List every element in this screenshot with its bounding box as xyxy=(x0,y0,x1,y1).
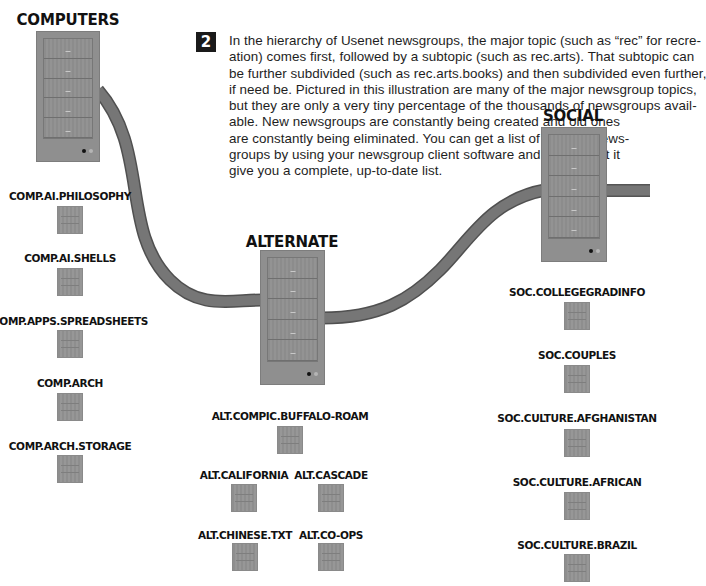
mini-server-icon xyxy=(564,302,590,330)
subgroup-label: SOC.CULTURE.AFRICAN xyxy=(513,476,642,488)
mini-server-icon xyxy=(57,455,83,483)
mini-server-icon xyxy=(232,543,258,571)
hierarchy-title-computers: COMPUTERS xyxy=(17,11,120,29)
subgroup-label: SOC.COLLEGEGRADINFO xyxy=(509,286,645,298)
mini-server-icon xyxy=(57,330,83,358)
mini-server-icon xyxy=(318,543,344,571)
description-line: ation) comes first, followed by a subtop… xyxy=(229,49,629,65)
server-rack-icon xyxy=(36,31,100,162)
mini-server-icon xyxy=(57,393,83,421)
subgroup-label: ALT.COMPIC.BUFFALO-ROAM xyxy=(212,410,369,422)
subgroup-label: SOC.COUPLES xyxy=(538,349,616,361)
mini-server-icon xyxy=(564,365,590,393)
mini-server-icon xyxy=(277,426,303,454)
description-line: be further subdivided (such as rec.arts.… xyxy=(229,66,629,82)
subgroup-label: ALT.CHINESE.TXT xyxy=(198,529,292,541)
description-line: if need be. Pictured in this illustratio… xyxy=(229,82,629,98)
subgroup-label: COMP.ARCH.STORAGE xyxy=(9,440,131,452)
subgroup-label: COMP.AI.SHELLS xyxy=(24,252,116,264)
description-line: In the hierarchy of Usenet newsgroups, t… xyxy=(229,33,629,49)
step-number-badge: 2 xyxy=(196,32,216,52)
server-rack-icon xyxy=(260,250,325,385)
mini-server-icon xyxy=(564,429,590,457)
mini-server-icon xyxy=(231,484,257,512)
subgroup-label: SOC.CULTURE.BRAZIL xyxy=(517,539,637,551)
mini-server-icon xyxy=(318,484,344,512)
subgroup-label: COMP.ARCH xyxy=(37,377,103,389)
subgroup-label: ALT.CALIFORNIA xyxy=(200,469,288,481)
subgroup-label: COMP.APPS.SPREADSHEETS xyxy=(0,315,148,327)
mini-server-icon xyxy=(564,554,590,582)
subgroup-label: COMP.AI.PHILOSOPHY xyxy=(9,190,131,202)
mini-server-icon xyxy=(57,268,83,296)
subgroup-label: ALT.CASCADE xyxy=(294,469,367,481)
server-rack-icon xyxy=(541,127,607,262)
hierarchy-title-alternate: ALTERNATE xyxy=(246,233,338,251)
subgroup-label: SOC.CULTURE.AFGHANISTAN xyxy=(497,412,656,424)
hierarchy-title-social: SOCIAL xyxy=(543,107,603,125)
mini-server-icon xyxy=(564,492,590,520)
mini-server-icon xyxy=(57,206,83,234)
subgroup-label: ALT.CO-OPS xyxy=(299,529,363,541)
